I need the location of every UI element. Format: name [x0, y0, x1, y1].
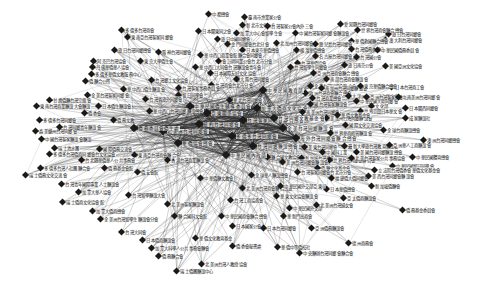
- graph-node[interactable]: 台灣客家事務委員會: [176, 86, 220, 91]
- graph-node[interactable]: 立法院台灣僑委會華僑文化基金會: [372, 168, 441, 173]
- graph-node[interactable]: 美洲台灣同鄉會聯誼會: [280, 160, 328, 165]
- graph-node[interactable]: 中華民國體育總會: [410, 155, 450, 160]
- graph-node[interactable]: 國際文化交流協會: [343, 123, 383, 128]
- graph-node[interactable]: 北美洲客家聯誼會: [165, 202, 205, 207]
- graph-node[interactable]: 台灣留學生同鄉會: [288, 65, 328, 70]
- graph-node[interactable]: 華東文化協會聯誼會: [274, 194, 318, 199]
- graph-node[interactable]: 紐約台灣同鄉會: [196, 121, 240, 127]
- graph-node[interactable]: 德州商務會: [346, 241, 374, 246]
- graph-node[interactable]: 多倫多台灣人社團聯合會: [38, 166, 90, 171]
- graph-node[interactable]: 東京華僑聯合總會: [358, 84, 398, 89]
- graph-node[interactable]: 台灣同鄉青年聯誼會: [57, 125, 101, 130]
- graph-node[interactable]: 加拿大科學人公共事務會聯會: [149, 246, 210, 251]
- graph-node[interactable]: 加拿大華人協會: [76, 190, 112, 195]
- graph-node[interactable]: 世界華商經貿聯誼會: [328, 131, 372, 136]
- graph-node[interactable]: 中華民國外交部亞東司: [278, 184, 326, 189]
- graph-node[interactable]: 中華民國僑生輔導委員會: [187, 103, 251, 109]
- graph-node[interactable]: 華北台灣同鄉會: [227, 98, 263, 103]
- graph-node[interactable]: 東南台灣商業聯誼大會聯誼: [34, 104, 91, 109]
- graph-node[interactable]: 台灣客家公會內外三會: [265, 24, 313, 29]
- graph-node[interactable]: 中華民國內政部: [223, 152, 267, 158]
- graph-node[interactable]: 台灣同鄉文教基金會: [271, 115, 325, 121]
- graph-node[interactable]: 中國科工業: [320, 150, 348, 155]
- graph-node[interactable]: 多倫多華僑文教服務中心: [89, 72, 141, 77]
- graph-node[interactable]: 鹿兒島台灣同鄉會: [313, 42, 353, 47]
- graph-node[interactable]: 北美洲台灣婦女會: [314, 203, 354, 208]
- graph-node[interactable]: 亞太僑商聯誼會: [341, 196, 377, 201]
- graph-node[interactable]: 台灣大同會: [119, 230, 147, 235]
- graph-node[interactable]: 多倫多台灣同鄉會: [229, 133, 278, 139]
- graph-node[interactable]: 甘肅僑聯台灣宗親會: [47, 98, 91, 103]
- graph-node[interactable]: 中華民國商會聯合總會: [219, 214, 267, 219]
- graph-node[interactable]: 僑委會: [82, 111, 101, 116]
- graph-node[interactable]: 聯合國科文會館: [172, 214, 208, 219]
- graph-node[interactable]: 僑務委員會僑生處: [131, 125, 180, 131]
- graph-node[interactable]: 台灣青年國際專業人士聯誼會: [59, 182, 120, 187]
- graph-node[interactable]: 台灣鄉土文化協會: [149, 78, 189, 83]
- graph-node[interactable]: 華中西口商業會館聯合會同鄉會: [198, 53, 263, 58]
- graph-node[interactable]: 瑞士僑商文化協會館: [60, 200, 104, 205]
- graph-node[interactable]: 全球華人聯誼總會: [249, 173, 289, 178]
- graph-node[interactable]: 美國台灣同鄉聯誼總會: [354, 150, 402, 155]
- graph-node[interactable]: 亞東關係協會: [204, 110, 243, 116]
- graph-node[interactable]: 日本關西同鄉會: [403, 106, 439, 111]
- graph-node[interactable]: 全球台商聯誼總會: [381, 128, 421, 133]
- graph-node[interactable]: 僑聯合公所: [83, 79, 111, 84]
- graph-node[interactable]: 華僑文化教育基金: [193, 236, 233, 241]
- graph-node[interactable]: 全美洲台灣留學生聯誼會分會: [98, 217, 159, 222]
- graph-node[interactable]: 華中西口大同會台灣聯誼會青年會: [193, 65, 262, 70]
- graph-node[interactable]: 台灣工商協進會: [228, 198, 264, 203]
- graph-node[interactable]: 中央聯辦台灣同鄉會聯合會: [297, 251, 354, 256]
- graph-node[interactable]: 丹佛華僑華人協會: [90, 65, 130, 70]
- graph-node[interactable]: 華僑協會總會: [175, 140, 214, 146]
- graph-node[interactable]: 成家聯誼社: [403, 116, 431, 121]
- graph-node[interactable]: 中華民國教育部: [260, 87, 304, 93]
- graph-node[interactable]: 華新門高商會: [281, 214, 313, 219]
- graph-node[interactable]: 阿克巴台灣協會: [91, 59, 127, 64]
- graph-node[interactable]: 台灣商業總會: [310, 96, 342, 101]
- graph-node[interactable]: 台灣省旅外同鄉會: [143, 97, 183, 102]
- graph-node[interactable]: 海外台灣同鄉會聯合總會: [293, 135, 357, 141]
- graph-node[interactable]: 北美台灣客家公共事務協會: [349, 156, 406, 161]
- graph-node[interactable]: 中華僑聯文教會: [198, 176, 234, 181]
- graph-node[interactable]: 僑務基金會館: [102, 166, 134, 171]
- graph-node[interactable]: 橫濱華僑總會: [294, 48, 326, 53]
- graph-node[interactable]: 日本台灣同鄉會: [261, 226, 297, 231]
- graph-node[interactable]: 國台灣客家聯誼會: [308, 102, 348, 107]
- graph-node[interactable]: 台北縣華僑華人公共事務會: [79, 158, 136, 163]
- graph-node[interactable]: 華中西口僑生聯誼會: [121, 87, 165, 92]
- graph-node[interactable]: 愛知縣台灣同鄉會: [338, 22, 378, 27]
- graph-node[interactable]: 中國台灣客家同鄉會聯誼會: [293, 31, 350, 36]
- graph-node[interactable]: 全美台灣同鄉聯誼會: [280, 125, 334, 131]
- graph-node[interactable]: 僑安會館: [135, 170, 158, 175]
- graph-node[interactable]: 國際僑務交流會: [97, 147, 133, 152]
- graph-node[interactable]: 北美洲台灣人教授協會: [199, 262, 247, 267]
- graph-node[interactable]: 名古屋台灣同鄉會: [313, 54, 353, 59]
- graph-node[interactable]: 旅日台灣同鄉總會: [112, 48, 152, 53]
- graph-node[interactable]: 加拿大僑商總會: [90, 209, 126, 214]
- graph-node[interactable]: 香港台灣商業聯誼會: [165, 158, 209, 163]
- graph-node[interactable]: 中華民國僑務委員會: [375, 48, 419, 53]
- graph-node[interactable]: 澳洲台灣同鄉總會: [421, 138, 461, 143]
- graph-node[interactable]: 日本僑生聯誼會: [96, 104, 132, 109]
- graph-node[interactable]: 台灣國公會: [354, 55, 382, 60]
- graph-node[interactable]: 東南亞台灣客家同鄉會: [125, 35, 173, 40]
- graph-node[interactable]: 多倫多台灣同鄉會: [37, 118, 77, 123]
- graph-node[interactable]: 華僑救國聯合總會: [349, 39, 389, 44]
- graph-node[interactable]: 亞洲台灣商會聯合總會: [311, 71, 359, 76]
- graph-node[interactable]: 北加州台灣同鄉會: [274, 41, 314, 46]
- graph-node[interactable]: 日本關東同之會: [196, 29, 232, 34]
- graph-node[interactable]: 美西台灣同鄉會聯誼會: [366, 174, 414, 179]
- graph-node[interactable]: 世界台灣商會聯合總會: [355, 28, 403, 33]
- graph-node[interactable]: 臺南市漁業家公會: [242, 15, 282, 20]
- graph-node[interactable]: 日本國家公會: [230, 224, 262, 229]
- graph-node[interactable]: 僑務文教: [111, 118, 134, 123]
- graph-node[interactable]: 中都總會: [206, 12, 229, 17]
- graph-node[interactable]: 東京大學僑生會: [138, 59, 174, 64]
- graph-node[interactable]: 多倫多台灣商會: [119, 28, 155, 33]
- graph-node[interactable]: 僑委會秘書處: [230, 244, 262, 249]
- graph-node[interactable]: 加拿大中心會留學生會: [234, 31, 282, 36]
- graph-node[interactable]: 日本僑商聯誼會: [140, 238, 176, 243]
- graph-node[interactable]: 華僑中等僑校社: [275, 245, 311, 250]
- graph-node[interactable]: 台灣同鄉聯誼總會: [250, 143, 299, 149]
